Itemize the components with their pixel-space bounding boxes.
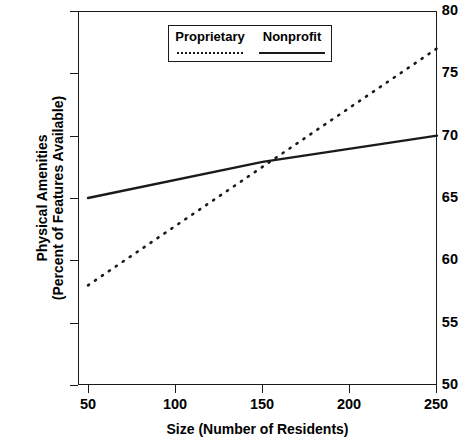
- legend-entry-nonprofit: Nonprofit: [251, 26, 333, 63]
- y-tick-mark-55: [70, 323, 78, 324]
- y-tick-mark-50: [70, 385, 78, 386]
- y-axis-title-line-1: Physical Amenities: [34, 11, 50, 385]
- x-tick-mark-200: [349, 385, 350, 393]
- x-tick-label-150: 150: [232, 396, 292, 412]
- plot-area: [78, 11, 437, 385]
- y-tick-mark-60: [70, 260, 78, 261]
- x-tick-mark-250: [436, 385, 437, 393]
- x-tick-label-100: 100: [145, 396, 205, 412]
- x-tick-mark-150: [262, 385, 263, 393]
- legend-entry-proprietary: Proprietary: [169, 26, 251, 63]
- y-tick-mark-70: [70, 136, 78, 137]
- x-axis-title: Size (Number of Residents): [78, 421, 437, 437]
- legend-label-proprietary: Proprietary: [169, 29, 251, 44]
- x-tick-label-50: 50: [58, 396, 118, 412]
- y-tick-mark-65: [70, 198, 78, 199]
- legend-swatch-dotted-line: [177, 52, 243, 54]
- legend: Proprietary Nonprofit: [168, 25, 332, 62]
- y-tick-mark-80: [70, 11, 78, 12]
- y-axis-title: Physical Amenities (Percent of Features …: [34, 11, 68, 385]
- legend-label-nonprofit: Nonprofit: [251, 29, 333, 44]
- x-tick-mark-50: [88, 385, 89, 393]
- x-tick-mark-100: [175, 385, 176, 393]
- y-tick-mark-75: [70, 73, 78, 74]
- x-tick-label-200: 200: [319, 396, 379, 412]
- x-tick-label-250: 250: [406, 396, 463, 412]
- legend-swatch-solid-line: [259, 52, 325, 54]
- y-axis-title-line-2: (Percent of Features Available): [50, 11, 66, 385]
